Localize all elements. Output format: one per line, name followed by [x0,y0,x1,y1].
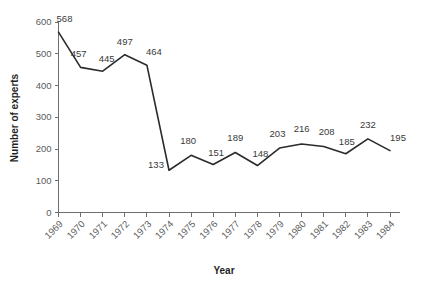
x-tick-label: 1972 [108,218,131,241]
data-point-label: 151 [208,147,224,158]
x-tick-label: 1976 [197,218,220,241]
data-point-label: 148 [252,148,268,159]
x-tick-label: 1970 [64,218,87,241]
data-point-label: 185 [339,136,355,147]
data-point-label: 497 [117,36,133,47]
y-tick-label: 0 [46,207,51,218]
y-axis-title: Number of experts [9,73,20,162]
x-tick-label: 1977 [219,218,242,241]
data-point-label: 203 [270,128,286,139]
x-tick-label: 1983 [352,218,375,241]
y-tick-label: 100 [36,175,52,186]
x-axis-title: Year [213,265,234,276]
y-tick-label: 500 [36,48,52,59]
data-point-label: 195 [390,132,406,143]
data-point-label: 568 [57,13,73,24]
y-tick-label: 600 [36,16,52,27]
y-tick-label: 400 [36,80,52,91]
x-tick-label: 1978 [241,218,264,241]
x-tick-label: 1969 [42,218,65,241]
data-point-label: 208 [319,126,335,137]
x-tick-label: 1971 [86,218,109,241]
y-tick-label: 200 [36,143,52,154]
data-point-label: 216 [294,123,310,134]
y-tick-label: 300 [36,111,52,122]
x-tick-label: 1979 [263,218,286,241]
data-point-label: 464 [146,46,162,57]
data-point-label: 457 [71,48,87,59]
data-point-label: 189 [227,132,243,143]
x-tick-label: 1982 [329,218,352,241]
y-axis: 0100200300400500600 [36,16,59,218]
x-tick-label: 1974 [153,218,176,241]
line-chart: 0100200300400500600 19691970197119721973… [0,0,434,288]
data-point-labels: 5684574454974641331801511891482032162081… [57,13,406,170]
x-axis: 1969197019711972197319741975197619771978… [42,213,400,241]
x-tick-label: 1975 [175,218,198,241]
data-point-label: 133 [148,159,164,170]
data-point-label: 180 [180,135,196,146]
x-tick-label: 1984 [374,218,397,241]
x-tick-label: 1981 [307,218,330,241]
data-point-label: 232 [360,119,376,130]
data-point-label: 445 [99,53,115,64]
x-tick-label: 1980 [285,218,308,241]
x-tick-label: 1973 [131,218,154,241]
chart-canvas: 0100200300400500600 19691970197119721973… [0,0,434,288]
